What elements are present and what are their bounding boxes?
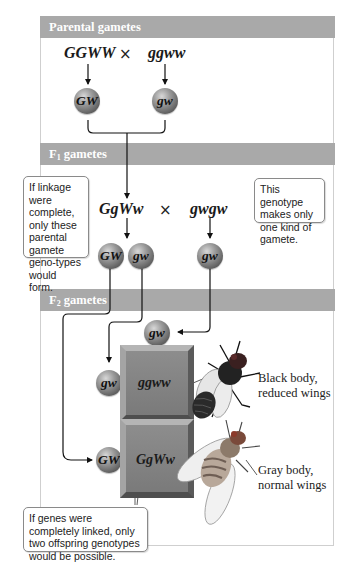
offspring-genotype-ggww: ggww [138, 375, 171, 391]
phenotype-line1: Gray body, [258, 463, 326, 478]
phenotype-line1: Black body, [258, 371, 331, 386]
one-gamete-callout: This genotype makes only one kind of gam… [254, 178, 325, 223]
two-genotypes-callout: If genes were completely linked, only tw… [23, 507, 148, 552]
f2-top-gamete-gw: gw [144, 320, 170, 346]
cross-symbol: × [159, 201, 172, 219]
gamete-sphere-gw: gw [128, 243, 154, 269]
f1-right-genotype: gwgw [190, 200, 227, 218]
gamete-sphere-GW: GW [98, 243, 124, 269]
linkage-callout: If linkage were complete, only these par… [23, 176, 89, 258]
phenotype-line2: normal wings [258, 478, 326, 493]
gamete-sphere-GW: GW [74, 88, 100, 114]
gamete-sphere-gw: gw [152, 88, 178, 114]
parental-right-genotype: ggww [148, 44, 185, 62]
cross-symbol: × [119, 45, 132, 63]
f2-row-gamete-GW: GW [96, 447, 122, 473]
gamete-sphere-gw: gw [197, 243, 223, 269]
gray-body-fly-image [176, 418, 266, 530]
black-body-label: Black body, reduced wings [258, 371, 331, 401]
f2-row-gamete-gw: gw [96, 370, 122, 396]
gray-body-label: Gray body, normal wings [258, 463, 326, 493]
phenotype-line2: reduced wings [258, 386, 331, 401]
offspring-genotype-GgWw: GgWw [136, 452, 175, 468]
f1-left-genotype: GgWw [99, 200, 143, 218]
parental-left-genotype: GGWW [64, 44, 116, 62]
